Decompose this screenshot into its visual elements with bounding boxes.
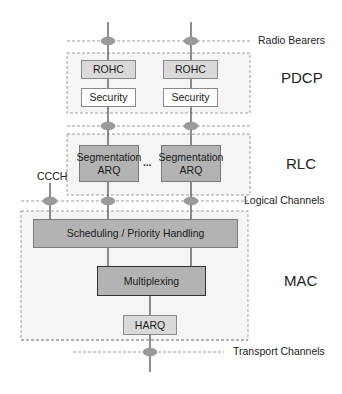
security-label-right: Security	[172, 91, 210, 104]
multiplexing-label: Multiplexing	[124, 275, 179, 288]
scheduling-priority-block: Scheduling / Priority Handling	[33, 219, 238, 248]
harq-block: HARQ	[123, 315, 177, 335]
arq-label-right: ARQ	[180, 164, 203, 177]
rlc-sap-left	[101, 122, 115, 130]
rohc-block-left: ROHC	[81, 60, 136, 79]
security-block-left: Security	[81, 88, 136, 107]
mac-layer-label: MAC	[284, 272, 317, 289]
rlc-ellipsis: ...	[143, 157, 151, 168]
rohc-label-right: ROHC	[175, 63, 206, 76]
logical-channel-sap-left	[101, 197, 115, 205]
transport-channels-label: Transport Channels	[233, 345, 325, 357]
protocol-stack-diagram: ROHC Security ROHC Security Segmentation…	[0, 0, 342, 394]
segmentation-arq-block-left: Segmentation ARQ	[79, 145, 139, 182]
radio-bearer-sap-left	[101, 37, 115, 45]
radio-bearer-sap-right	[184, 37, 198, 45]
security-label-left: Security	[90, 91, 128, 104]
scheduling-label: Scheduling / Priority Handling	[67, 227, 205, 240]
harq-label: HARQ	[135, 319, 165, 332]
rohc-block-right: ROHC	[163, 60, 218, 79]
rlc-sap-right	[184, 122, 198, 130]
transport-channel-sap	[143, 348, 157, 356]
security-block-right: Security	[163, 88, 218, 107]
logical-channel-sap-right	[184, 197, 198, 205]
radio-bearers-label: Radio Bearers	[258, 34, 325, 46]
multiplexing-block: Multiplexing	[97, 266, 206, 296]
segmentation-label-left: Segmentation	[77, 151, 142, 164]
logical-channels-label: Logical Channels	[244, 194, 325, 206]
logical-channel-sap-ccch	[43, 197, 57, 205]
pdcp-layer-label: PDCP	[281, 69, 323, 86]
rlc-layer-label: RLC	[286, 155, 316, 172]
segmentation-arq-block-right: Segmentation ARQ	[161, 145, 221, 182]
rohc-label-left: ROHC	[93, 63, 124, 76]
ccch-label: CCCH	[37, 170, 67, 182]
arq-label-left: ARQ	[98, 164, 121, 177]
segmentation-label-right: Segmentation	[159, 151, 224, 164]
